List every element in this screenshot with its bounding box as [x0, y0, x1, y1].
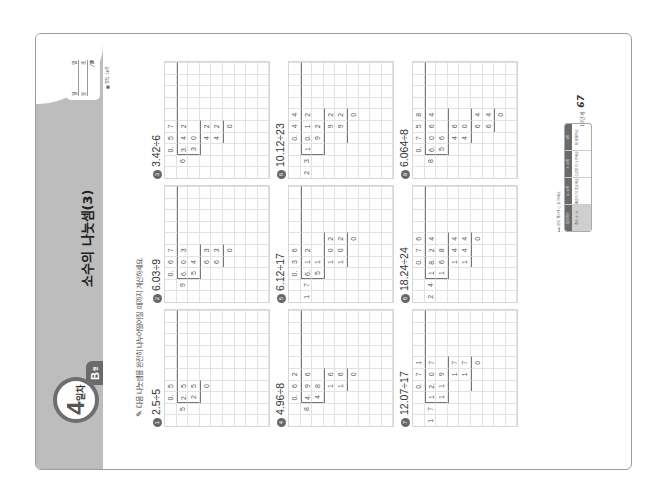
- grid-cell[interactable]: [177, 108, 189, 120]
- grid-cell[interactable]: [246, 322, 258, 334]
- grid-cell[interactable]: [289, 85, 301, 97]
- grid-cell[interactable]: [301, 209, 313, 221]
- grid-cell[interactable]: [258, 155, 270, 167]
- grid-cell[interactable]: [370, 232, 382, 244]
- grid-cell[interactable]: [258, 345, 270, 357]
- grid-cell[interactable]: [188, 414, 200, 426]
- grid-cell[interactable]: [494, 97, 506, 109]
- grid-cell[interactable]: [246, 368, 258, 380]
- grid-cell[interactable]: [165, 209, 177, 221]
- grid-cell[interactable]: [312, 186, 324, 198]
- grid-cell[interactable]: [347, 403, 359, 415]
- grid-cell[interactable]: 0.: [289, 132, 301, 144]
- grid-cell[interactable]: [246, 232, 258, 244]
- grid-cell[interactable]: [359, 380, 371, 392]
- grid-cell[interactable]: 6.: [425, 143, 437, 155]
- grid-cell[interactable]: [471, 322, 483, 334]
- grid-cell[interactable]: 7: [413, 132, 425, 144]
- grid-cell[interactable]: [211, 403, 223, 415]
- grid-cell[interactable]: 1: [459, 256, 471, 268]
- grid-cell[interactable]: [312, 221, 324, 233]
- grid-cell[interactable]: [347, 221, 359, 233]
- grid-cell[interactable]: 6: [177, 155, 189, 167]
- grid-cell[interactable]: [347, 186, 359, 198]
- grid-cell[interactable]: 7: [425, 356, 437, 368]
- grid-cell[interactable]: [448, 267, 460, 279]
- grid-cell[interactable]: [359, 368, 371, 380]
- grid-cell[interactable]: [177, 209, 189, 221]
- grid-cell[interactable]: 6: [324, 368, 336, 380]
- grid-cell[interactable]: [506, 186, 518, 198]
- grid-cell[interactable]: [506, 345, 518, 357]
- grid-cell[interactable]: [413, 62, 425, 74]
- division-grid[interactable]: 0.5763.423042420: [164, 61, 270, 179]
- grid-cell[interactable]: [413, 166, 425, 178]
- grid-cell[interactable]: [324, 132, 336, 144]
- grid-cell[interactable]: 0: [347, 108, 359, 120]
- grid-cell[interactable]: [188, 221, 200, 233]
- grid-cell[interactable]: [188, 368, 200, 380]
- grid-cell[interactable]: [506, 221, 518, 233]
- grid-cell[interactable]: [289, 279, 301, 291]
- grid-cell[interactable]: [459, 279, 471, 291]
- grid-cell[interactable]: [312, 345, 324, 357]
- grid-cell[interactable]: [347, 85, 359, 97]
- grid-cell[interactable]: [235, 256, 247, 268]
- grid-cell[interactable]: [347, 380, 359, 392]
- grid-cell[interactable]: [258, 322, 270, 334]
- grid-cell[interactable]: [258, 279, 270, 291]
- grid-cell[interactable]: [359, 186, 371, 198]
- grid-cell[interactable]: 6.: [301, 267, 313, 279]
- grid-cell[interactable]: 0.: [289, 391, 301, 403]
- grid-cell[interactable]: [506, 356, 518, 368]
- grid-cell[interactable]: [382, 414, 394, 426]
- grid-cell[interactable]: [494, 166, 506, 178]
- grid-cell[interactable]: [494, 279, 506, 291]
- grid-cell[interactable]: [347, 256, 359, 268]
- grid-cell[interactable]: [312, 155, 324, 167]
- grid-cell[interactable]: [459, 345, 471, 357]
- grid-cell[interactable]: [483, 186, 495, 198]
- grid-cell[interactable]: [324, 209, 336, 221]
- grid-cell[interactable]: [436, 209, 448, 221]
- grid-cell[interactable]: [347, 166, 359, 178]
- grid-cell[interactable]: [436, 186, 448, 198]
- grid-cell[interactable]: [459, 267, 471, 279]
- grid-cell[interactable]: [188, 403, 200, 415]
- grid-cell[interactable]: [436, 232, 448, 244]
- grid-cell[interactable]: [246, 256, 258, 268]
- grid-cell[interactable]: 5: [436, 143, 448, 155]
- grid-cell[interactable]: [459, 198, 471, 210]
- grid-cell[interactable]: 0: [335, 244, 347, 256]
- grid-cell[interactable]: [177, 333, 189, 345]
- grid-cell[interactable]: [335, 414, 347, 426]
- grid-cell[interactable]: [382, 97, 394, 109]
- grid-cell[interactable]: 0: [200, 380, 212, 392]
- grid-cell[interactable]: 0.: [413, 143, 425, 155]
- grid-cell[interactable]: [370, 85, 382, 97]
- grid-cell[interactable]: 7: [413, 244, 425, 256]
- grid-cell[interactable]: [483, 143, 495, 155]
- grid-cell[interactable]: [347, 279, 359, 291]
- grid-cell[interactable]: 6: [335, 368, 347, 380]
- grid-cell[interactable]: [483, 403, 495, 415]
- grid-cell[interactable]: [223, 166, 235, 178]
- grid-cell[interactable]: [436, 310, 448, 322]
- grid-cell[interactable]: [448, 310, 460, 322]
- grid-cell[interactable]: [506, 85, 518, 97]
- grid-cell[interactable]: [506, 198, 518, 210]
- grid-cell[interactable]: [235, 244, 247, 256]
- grid-cell[interactable]: 5: [177, 380, 189, 392]
- grid-cell[interactable]: [506, 143, 518, 155]
- grid-cell[interactable]: [494, 322, 506, 334]
- month-field[interactable]: 월: [70, 91, 78, 96]
- grid-cell[interactable]: [448, 391, 460, 403]
- grid-cell[interactable]: [347, 391, 359, 403]
- grid-cell[interactable]: [235, 97, 247, 109]
- grid-cell[interactable]: [223, 290, 235, 302]
- grid-cell[interactable]: [312, 198, 324, 210]
- grid-cell[interactable]: [506, 391, 518, 403]
- grid-cell[interactable]: [289, 345, 301, 357]
- grid-cell[interactable]: 6: [200, 256, 212, 268]
- grid-cell[interactable]: [235, 186, 247, 198]
